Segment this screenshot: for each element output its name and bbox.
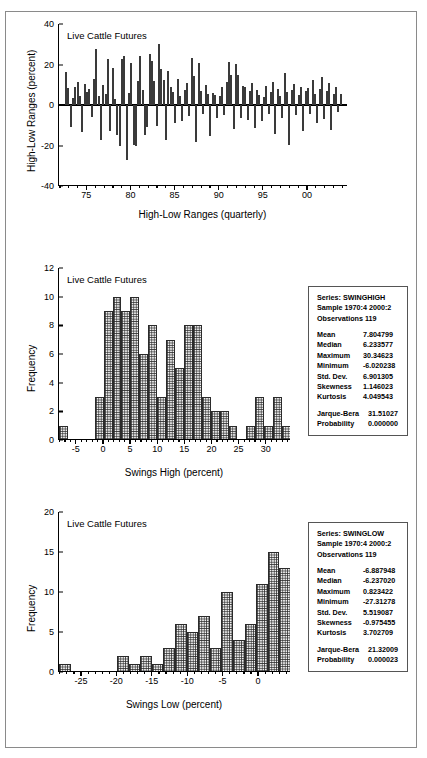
fig3-x-axis-title: Swings Low (percent) bbox=[58, 700, 290, 710]
fig3-histogram-bar bbox=[279, 568, 290, 671]
fig1-spike-bar bbox=[265, 86, 267, 105]
fig1-spike-bar bbox=[107, 59, 109, 105]
fig3-stat-row: Skewness-0.975455 bbox=[317, 618, 400, 628]
fig2-x-minor-tick bbox=[146, 439, 147, 442]
fig1-spike-bar bbox=[247, 105, 249, 120]
fig3-x-tick-label: -15 bbox=[145, 677, 158, 686]
fig2-x-tick-label: 20 bbox=[206, 445, 216, 454]
fig2-x-minor-tick bbox=[282, 439, 283, 442]
fig2-stat-value: 6.901305 bbox=[356, 372, 400, 382]
fig1-spike-bar bbox=[79, 96, 81, 105]
fig3-x-minor-tick bbox=[130, 671, 131, 674]
fig3-stat-value: 0.823422 bbox=[356, 587, 400, 597]
fig1-y-tick-mark bbox=[59, 145, 63, 146]
fig1-spike-bar bbox=[295, 105, 297, 115]
fig3-x-tick-label: -10 bbox=[181, 677, 194, 686]
fig2-histogram-bar bbox=[104, 311, 113, 439]
fig3-x-minor-tick bbox=[243, 671, 244, 674]
fig2-stats-table: Mean7.804799Median6.233577Maximum30.3462… bbox=[317, 330, 400, 403]
fig2-histogram-bar bbox=[148, 325, 157, 439]
fig3-histogram-bar bbox=[210, 648, 222, 671]
fig1-spike-bar bbox=[240, 105, 242, 118]
fig1-spike-bar bbox=[163, 80, 165, 105]
fig3-histogram-bar bbox=[140, 656, 152, 671]
fig2-x-minor-tick bbox=[249, 439, 250, 442]
fig2-x-minor-tick bbox=[86, 439, 87, 442]
fig1-spike-bar bbox=[186, 83, 188, 105]
fig3-x-tick-mark bbox=[222, 671, 223, 676]
fig2-histogram-bar bbox=[264, 426, 273, 439]
fig2-x-minor-tick bbox=[178, 439, 179, 442]
fig1-x-tick-mark bbox=[218, 185, 219, 190]
fig3-histogram-bar bbox=[268, 552, 280, 671]
fig1-spike-bar bbox=[221, 87, 223, 105]
fig3-histogram-bar bbox=[245, 624, 257, 671]
fig1-spike-bar bbox=[67, 88, 69, 105]
fig1-spike-bar bbox=[172, 92, 174, 105]
fig3-y-tick-label: 20 bbox=[44, 508, 59, 517]
fig1-x-minor-tick bbox=[59, 185, 60, 188]
fig3-x-minor-tick bbox=[173, 671, 174, 674]
fig1-spike-bar bbox=[254, 105, 256, 128]
fig3-y-tick-mark bbox=[59, 632, 63, 633]
fig2-test-row: Jarque-Bera31.51027 bbox=[317, 409, 400, 419]
fig3-x-tick-label: -20 bbox=[110, 677, 123, 686]
fig3-histogram-bar bbox=[198, 616, 210, 671]
fig2-x-tick-label: 0 bbox=[100, 445, 105, 454]
fig1-spike-bar bbox=[300, 87, 302, 105]
fig3-histogram-bar bbox=[59, 664, 71, 671]
fig2-stat-row: Maximum30.34623 bbox=[317, 351, 400, 361]
fig2-y-axis-title: Frequency bbox=[27, 345, 37, 392]
fig2-x-tick-label: 10 bbox=[152, 445, 162, 454]
fig2-x-tick-mark bbox=[102, 439, 103, 444]
fig1-x-tick-mark bbox=[306, 185, 307, 190]
fig3-stat-name: Mean bbox=[317, 566, 356, 576]
fig2-x-minor-tick bbox=[276, 439, 277, 442]
fig2-x-tick-mark bbox=[238, 439, 239, 444]
fig3-stat-value: -6.887948 bbox=[356, 566, 400, 576]
fig2-stat-name: Minimum bbox=[317, 361, 356, 371]
fig1-spike-bar bbox=[330, 105, 332, 130]
fig1-x-tick-label: 75 bbox=[81, 191, 91, 200]
fig1-spike-bar bbox=[109, 105, 111, 131]
fig3-histogram-bar bbox=[152, 664, 164, 671]
fig3-y-tick-mark bbox=[59, 512, 63, 513]
fig1-x-minor-tick bbox=[183, 185, 184, 188]
fig1-spike-bar bbox=[98, 96, 100, 105]
fig2-test-value: 0.000000 bbox=[361, 419, 400, 429]
fig1-x-minor-tick bbox=[77, 185, 78, 188]
fig1-spike-bar bbox=[314, 94, 316, 105]
fig1-x-minor-tick bbox=[148, 185, 149, 188]
fig1-x-tick-mark bbox=[262, 185, 263, 190]
fig2-x-axis-title: Swings High (percent) bbox=[58, 468, 290, 478]
fig2-x-tick-label: 15 bbox=[179, 445, 189, 454]
fig1-x-minor-tick bbox=[280, 185, 281, 188]
fig2-stat-name: Skewness bbox=[317, 382, 356, 392]
fig1-y-tick-label: -20 bbox=[41, 141, 59, 150]
fig1-x-tick-label: 95 bbox=[258, 191, 268, 200]
fig2-stat-value: 7.804799 bbox=[356, 330, 400, 340]
fig2-x-minor-tick bbox=[162, 439, 163, 442]
fig1-x-minor-tick bbox=[139, 185, 140, 188]
fig3-plot-note: Live Cattle Futures bbox=[67, 519, 147, 529]
fig3-x-minor-tick bbox=[66, 671, 67, 674]
fig3-x-minor-tick bbox=[123, 671, 124, 674]
fig2-y-tick-mark bbox=[59, 382, 63, 383]
fig3-stat-name: Maximum bbox=[317, 587, 356, 597]
fig1-spike-bar bbox=[309, 105, 311, 114]
fig3-x-minor-tick bbox=[215, 671, 216, 674]
fig2-x-minor-tick bbox=[254, 439, 255, 442]
figure-swings-high: Frequency Live Cattle Futures 121086420-… bbox=[0, 252, 427, 492]
fig3-x-tick-mark bbox=[257, 671, 258, 676]
figure-page: High-Low Ranges (percent) Live Cattle Fu… bbox=[0, 0, 427, 758]
fig1-spike-bar bbox=[181, 105, 183, 121]
fig2-x-minor-tick bbox=[124, 439, 125, 442]
fig2-plot-area: Live Cattle Futures 121086420-5051015202… bbox=[58, 268, 290, 440]
fig1-x-tick-label: 85 bbox=[170, 191, 180, 200]
fig3-x-minor-tick bbox=[279, 671, 280, 674]
fig3-stats-table: Mean-6.887948Median-6.237020Maximum0.823… bbox=[317, 566, 400, 639]
fig2-stat-row: Kurtosis4.049543 bbox=[317, 392, 400, 402]
fig1-x-tick-mark bbox=[86, 185, 87, 190]
fig1-spike-bar bbox=[165, 105, 167, 140]
fig2-histogram-bar bbox=[273, 397, 282, 439]
